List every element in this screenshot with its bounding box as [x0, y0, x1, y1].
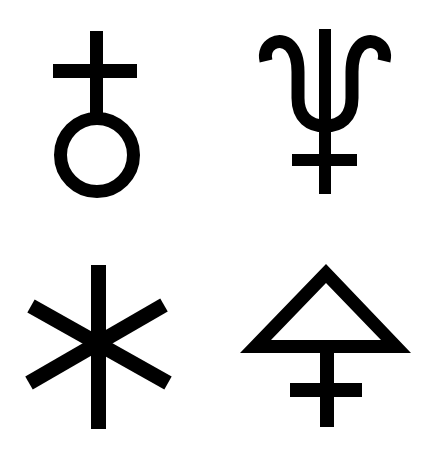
- asterisk-icon: [29, 265, 168, 429]
- neptune-icon: [265, 29, 384, 194]
- uranus-crossbar: [53, 64, 137, 78]
- sulfur-triangle: [240, 264, 411, 353]
- symbol-grid: Alchemical / astronomical symbols: [0, 0, 441, 461]
- uranus-orb: [61, 119, 134, 192]
- symbols-svg: [0, 0, 441, 461]
- sulfur-crossbar: [290, 383, 362, 397]
- neptune-stem: [319, 29, 331, 194]
- sulfur-icon: [240, 264, 411, 427]
- neptune-crossbar: [292, 154, 357, 166]
- uranus-icon: [53, 31, 137, 192]
